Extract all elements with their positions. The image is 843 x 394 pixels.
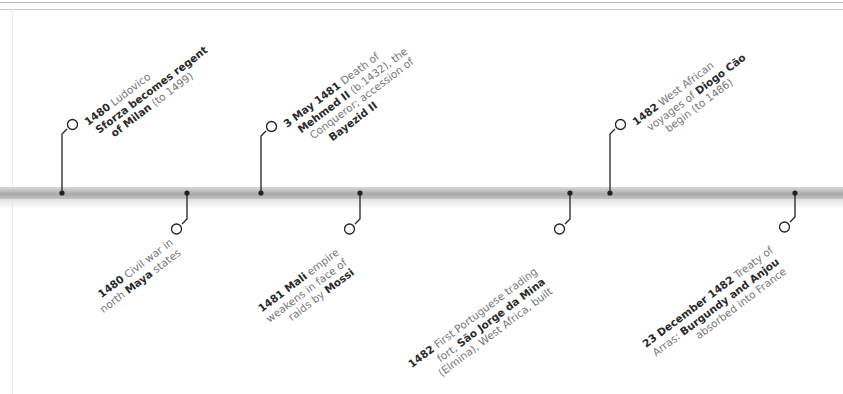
connector-above-1480 (59, 120, 77, 196)
connector-above-1481 (258, 122, 276, 196)
connector-above-1482 (607, 120, 625, 196)
connector-below-1480 (172, 190, 190, 234)
connector-below-1482-arras (780, 190, 798, 232)
connector-below-1482 (555, 190, 573, 234)
connector-below-1481 (345, 190, 363, 234)
